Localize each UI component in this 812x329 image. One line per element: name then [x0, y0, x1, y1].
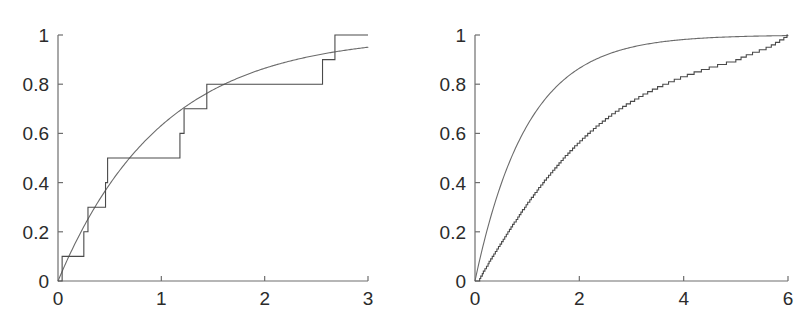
chart-svg-left: 0123 00.20.40.60.81 [0, 0, 406, 329]
empirical-cdf-step-right [475, 35, 788, 281]
x-tick-label: 4 [678, 288, 689, 309]
y-tick-label: 0.8 [440, 74, 466, 95]
chart-panel-right: 0246 00.20.40.60.81 [406, 0, 812, 329]
x-tick-label: 6 [783, 288, 794, 309]
y-tick-label: 0.6 [440, 123, 466, 144]
y-tick-label: 1 [38, 25, 49, 46]
y-tick-group-right: 00.20.40.60.81 [440, 25, 480, 292]
axes-left: 0123 00.20.40.60.81 [23, 25, 374, 309]
y-tick-label: 0 [38, 271, 49, 292]
y-tick-label: 1 [455, 25, 466, 46]
theoretical-cdf-curve-left [58, 47, 368, 281]
chart-svg-right: 0246 00.20.40.60.81 [406, 0, 812, 329]
axes-right: 0246 00.20.40.60.81 [440, 25, 794, 309]
empirical-cdf-step-left [58, 35, 368, 281]
y-tick-label: 0.4 [440, 173, 467, 194]
y-tick-label: 0.2 [440, 222, 466, 243]
x-tick-label: 2 [259, 288, 270, 309]
x-tick-label: 0 [53, 288, 64, 309]
x-tick-label: 1 [156, 288, 167, 309]
x-tick-label: 3 [363, 288, 374, 309]
y-tick-label: 0.4 [23, 173, 50, 194]
figure-root: 0123 00.20.40.60.81 0246 00.20.40.60.81 [0, 0, 812, 329]
y-tick-label: 0.8 [23, 74, 49, 95]
theoretical-cdf-curve-right [475, 36, 788, 281]
y-tick-label: 0.6 [23, 123, 49, 144]
x-tick-label: 0 [470, 288, 481, 309]
y-tick-group-left: 00.20.40.60.81 [23, 25, 63, 292]
x-tick-label: 2 [574, 288, 585, 309]
y-tick-label: 0.2 [23, 222, 49, 243]
y-tick-label: 0 [455, 271, 466, 292]
chart-panel-left: 0123 00.20.40.60.81 [0, 0, 406, 329]
